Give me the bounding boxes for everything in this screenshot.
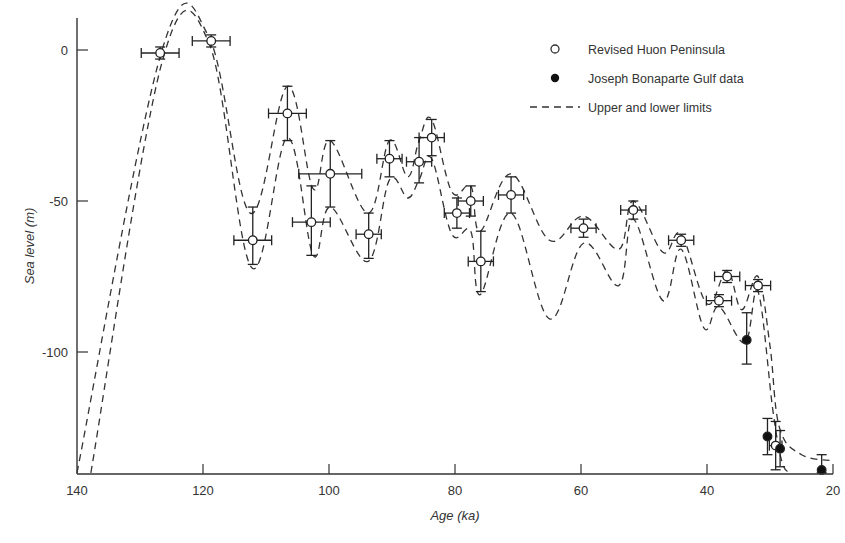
open-circle-marker — [453, 209, 462, 218]
y-tick-label: -100 — [42, 345, 68, 360]
huon-data-point — [299, 141, 362, 207]
bonaparte-data-point — [742, 313, 752, 364]
open-circle-marker — [629, 206, 638, 215]
y-tick-label: 0 — [61, 43, 68, 58]
x-tick-label: 120 — [192, 483, 214, 498]
legend-label-huon: Revised Huon Peninsula — [588, 43, 725, 57]
filled-circle-marker — [763, 432, 772, 441]
huon-data-point — [292, 186, 330, 255]
x-tick-label: 40 — [700, 483, 714, 498]
y-tick-label: -50 — [49, 194, 68, 209]
huon-data-point — [706, 295, 731, 307]
y-axis-title: Sea level (m) — [22, 208, 37, 285]
filled-circle-marker — [776, 444, 785, 453]
open-circle-marker — [283, 109, 292, 118]
x-tick-label: 80 — [448, 483, 462, 498]
huon-data-point — [669, 234, 694, 246]
legend-label-bonaparte: Joseph Bonaparte Gulf data — [588, 72, 744, 86]
open-circle-marker — [427, 133, 436, 142]
huon-data-point — [444, 198, 469, 228]
open-circle-marker — [385, 154, 394, 163]
x-tick-label: 60 — [574, 483, 588, 498]
open-circle-marker — [466, 197, 475, 206]
open-circle-marker — [507, 191, 516, 200]
open-circle-marker — [207, 37, 216, 46]
sea-level-chart: 140120100806040200-50-100 Age (ka) Sea l… — [0, 0, 845, 543]
huon-data-point — [192, 35, 230, 47]
open-circle-marker — [715, 296, 724, 305]
legend-label-limits: Upper and lower limits — [588, 101, 712, 115]
huon-data-point — [356, 213, 381, 258]
bonaparte-data-point — [762, 418, 772, 454]
bonaparte-data-point — [817, 455, 827, 475]
open-circle-marker — [415, 157, 424, 166]
huon-data-point — [141, 47, 179, 59]
huon-data-point — [745, 280, 770, 292]
huon-data-point — [377, 141, 402, 177]
open-circle-marker — [364, 230, 373, 239]
huon-data-point — [621, 201, 646, 219]
legend: Revised Huon Peninsula Joseph Bonaparte … — [530, 43, 744, 115]
open-circle-marker — [754, 281, 763, 290]
huon-data-point — [715, 270, 740, 282]
filled-circle-marker — [817, 466, 826, 475]
open-circle-marker — [723, 272, 732, 281]
legend-open-circle-icon — [551, 45, 559, 53]
open-circle-marker — [307, 218, 316, 227]
huon-data-point — [468, 231, 493, 291]
huon-data-point — [406, 138, 431, 183]
filled-circle-marker — [742, 336, 751, 345]
x-tick-label: 140 — [66, 483, 88, 498]
open-circle-marker — [477, 257, 486, 266]
open-circle-marker — [579, 224, 588, 233]
open-circle-marker — [156, 49, 165, 58]
open-circle-marker — [248, 236, 257, 245]
x-tick-label: 20 — [826, 483, 840, 498]
tick-marks: 140120100806040200-50-100 — [42, 43, 840, 498]
legend-filled-circle-icon — [551, 74, 559, 82]
open-circle-marker — [326, 170, 335, 179]
open-circle-marker — [677, 236, 686, 245]
x-tick-label: 100 — [318, 483, 340, 498]
huon-data-point — [571, 219, 596, 237]
x-axis-title: Age (ka) — [429, 508, 479, 523]
axes — [77, 18, 833, 474]
